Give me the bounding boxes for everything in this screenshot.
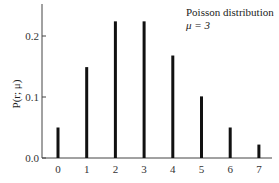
y-tick-label: 0.1 xyxy=(25,91,39,103)
bar xyxy=(257,145,260,158)
bar xyxy=(229,128,232,159)
x-tick-label: 7 xyxy=(256,163,262,175)
y-tick-label: 0.2 xyxy=(25,30,39,42)
bar xyxy=(200,96,203,158)
y-axis-label: P(r; μ) xyxy=(10,74,22,114)
chart-title: Poisson distribution xyxy=(186,6,274,18)
x-tick-label: 4 xyxy=(170,163,176,175)
x-tick-label: 2 xyxy=(113,163,119,175)
poisson-chart: 0.00.10.201234567 Poisson distribution μ… xyxy=(0,0,279,183)
y-tick-label: 0.0 xyxy=(25,152,39,164)
bar xyxy=(57,128,60,159)
x-tick-label: 0 xyxy=(55,163,61,175)
x-tick-label: 1 xyxy=(84,163,90,175)
plot-area: 0.00.10.201234567 xyxy=(0,0,279,183)
x-tick-label: 6 xyxy=(227,163,233,175)
bar xyxy=(143,21,146,158)
chart-subtitle: μ = 3 xyxy=(186,19,210,31)
bar xyxy=(171,56,174,158)
bar xyxy=(114,21,117,158)
bar xyxy=(85,67,88,158)
x-tick-label: 3 xyxy=(141,163,147,175)
x-tick-label: 5 xyxy=(199,163,205,175)
